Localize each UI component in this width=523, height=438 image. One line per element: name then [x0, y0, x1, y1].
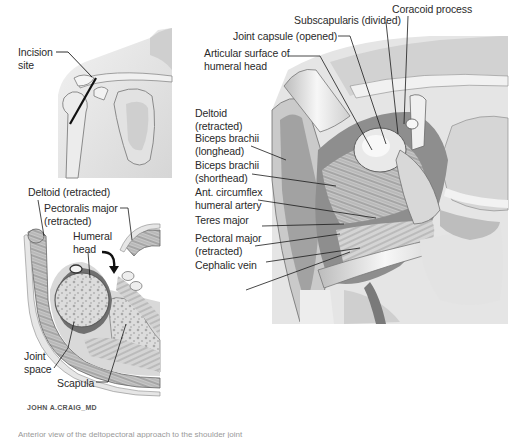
label-biceps-longhead: Biceps brachii (longhead) [195, 132, 259, 157]
label-subscapularis-divided: Subscapularis (divided) [294, 14, 401, 27]
label-pectoral-major-retracted: Pectoral major (retracted) [195, 232, 261, 257]
label-deltoid-retracted-op: Deltoid (retracted) [195, 107, 242, 132]
label-incision-site: Incision site [18, 46, 53, 71]
label-ant-circumflex-artery: Ant. circumflex humeral artery [195, 186, 262, 211]
label-joint-space: Joint space [24, 350, 52, 375]
label-articular-surface: Articular surface of humeral head [204, 47, 290, 72]
illustrator-signature: JOHN A.CRAIG_MD [27, 404, 97, 411]
label-teres-major: Teres major [195, 214, 249, 227]
label-biceps-shorthead: Biceps brachii (shorthead) [195, 159, 259, 184]
figure-caption: Anterior view of the deltopectoral appro… [18, 430, 518, 438]
label-deltoid-retracted-cross: Deltoid (retracted) [28, 186, 110, 199]
label-cephalic-vein: Cephalic vein [195, 259, 257, 272]
label-coracoid-process: Coracoid process [392, 3, 472, 16]
shoulder-surface-illustration [56, 28, 172, 178]
label-pectoralis-major: Pectoralis major (retracted) [44, 202, 118, 227]
label-scapula: Scapula [57, 377, 94, 390]
label-joint-capsule-opened: Joint capsule (opened) [233, 30, 337, 43]
label-humeral-head: Humeral head [73, 230, 112, 255]
